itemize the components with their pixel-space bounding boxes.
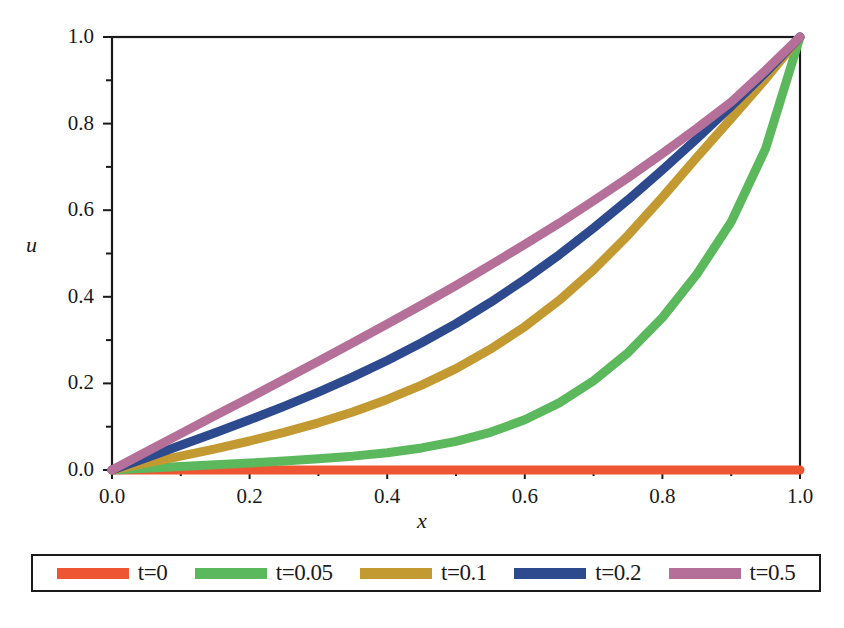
y-tick-label: 0.4 xyxy=(44,284,94,309)
y-tick-label: 0.8 xyxy=(44,111,94,136)
y-tick-label: 0.0 xyxy=(44,457,94,482)
legend-label: t=0.05 xyxy=(276,560,333,586)
plot-canvas xyxy=(0,0,844,545)
legend-entry-2[interactable]: t=0.1 xyxy=(360,560,487,586)
legend-entry-3[interactable]: t=0.2 xyxy=(514,560,641,586)
legend-swatch-icon xyxy=(360,568,432,579)
figure: x u t=0t=0.05t=0.1t=0.2t=0.5 0.00.20.40.… xyxy=(0,0,844,628)
legend-swatch-icon xyxy=(669,568,741,579)
legend-label: t=0 xyxy=(138,560,167,586)
legend-swatch-icon xyxy=(195,568,267,579)
legend: t=0t=0.05t=0.1t=0.2t=0.5 xyxy=(31,554,821,592)
legend-swatch-icon xyxy=(514,568,586,579)
y-tick-label: 0.6 xyxy=(44,197,94,222)
legend-label: t=0.2 xyxy=(595,560,641,586)
legend-entry-0[interactable]: t=0 xyxy=(57,560,167,586)
legend-entry-1[interactable]: t=0.05 xyxy=(195,560,333,586)
plot-frame xyxy=(112,37,800,470)
x-tick-label: 1.0 xyxy=(778,484,822,509)
x-axis-label: x xyxy=(0,508,844,534)
y-axis-label: u xyxy=(26,232,37,258)
x-tick-label: 0.8 xyxy=(640,484,684,509)
x-tick-label: 0.0 xyxy=(90,484,134,509)
x-tick-label: 0.6 xyxy=(503,484,547,509)
y-tick-label: 0.2 xyxy=(44,370,94,395)
x-tick-label: 0.2 xyxy=(228,484,272,509)
y-tick-label: 1.0 xyxy=(44,24,94,49)
legend-entry-4[interactable]: t=0.5 xyxy=(669,560,796,586)
legend-label: t=0.5 xyxy=(750,560,796,586)
x-tick-label: 0.4 xyxy=(365,484,409,509)
legend-label: t=0.1 xyxy=(441,560,487,586)
plot-area xyxy=(0,0,844,545)
legend-swatch-icon xyxy=(57,568,129,579)
